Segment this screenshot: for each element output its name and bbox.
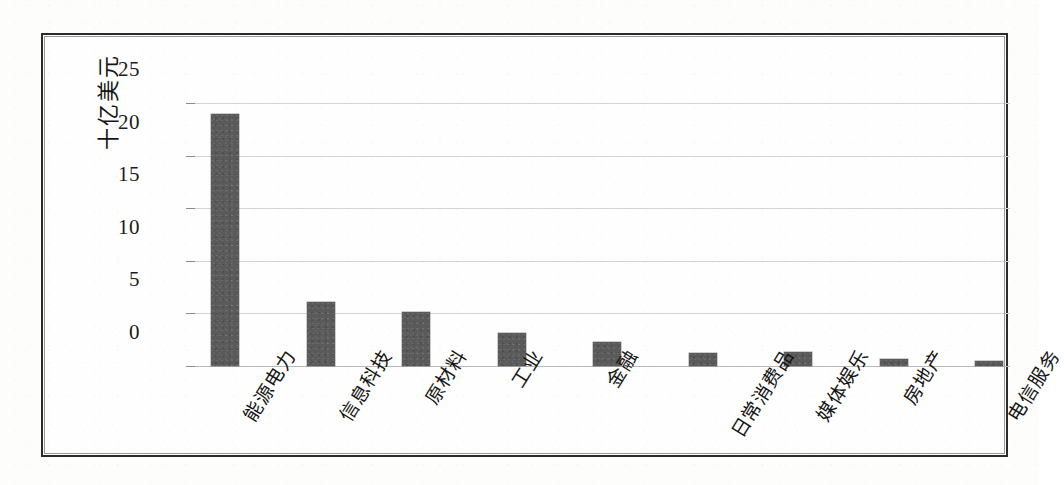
bar	[880, 359, 908, 366]
gridline	[195, 366, 1010, 367]
bar	[402, 312, 430, 366]
y-axis-tick-label: 0	[94, 322, 140, 343]
bar	[307, 302, 335, 366]
y-axis-tick-mark	[186, 103, 195, 104]
bar	[975, 361, 1003, 366]
gridline	[195, 261, 1010, 262]
y-axis-tick-label: 25	[94, 59, 140, 80]
plot-area	[195, 103, 1010, 366]
y-axis-title: 十亿美元	[90, 27, 122, 177]
y-axis-tick-label: 10	[94, 217, 140, 238]
gridline	[195, 156, 1010, 157]
y-axis-tick-mark	[186, 156, 195, 157]
y-axis-tick-mark	[186, 313, 195, 314]
y-axis-tick-label: 5	[94, 269, 140, 290]
gridline	[195, 103, 1010, 104]
y-axis-tick-mark	[186, 208, 195, 209]
bar	[689, 353, 717, 366]
bar	[211, 114, 239, 366]
y-axis-tick-mark	[186, 366, 195, 367]
y-axis-tick-label: 20	[94, 112, 140, 133]
figure-frame: 十亿美元 0510152025能源电力信息科技原材料工业金融日常消费品媒体娱乐房…	[41, 33, 1008, 457]
y-axis-tick-mark	[186, 261, 195, 262]
gridline	[195, 208, 1010, 209]
y-axis-tick-label: 15	[94, 164, 140, 185]
